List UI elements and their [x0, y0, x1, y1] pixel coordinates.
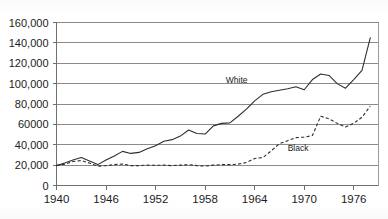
y-tick-label: 20,000 — [15, 159, 49, 171]
y-axis-tick-labels: 160,000140,000120,000100,00080,000600004… — [9, 17, 49, 192]
y-tick-label: 100,000 — [9, 78, 49, 90]
y-tick-label: 140,000 — [9, 37, 49, 49]
x-tick-label: 1970 — [291, 193, 317, 205]
x-tick-label: 1946 — [93, 193, 119, 205]
y-tick-label: 120,000 — [9, 57, 49, 69]
line-chart: 160,000140,000120,000100,00080,000600004… — [0, 0, 388, 219]
y-tick-label: 60000 — [18, 118, 49, 130]
x-tick-label: 1952 — [143, 193, 169, 205]
y-tick-label: 80,000 — [15, 98, 49, 110]
x-tick-label: 1940 — [44, 193, 70, 205]
chart-background — [0, 0, 388, 219]
y-tick-label: 40,000 — [15, 139, 49, 151]
x-tick-label: 1976 — [341, 193, 367, 205]
chart-canvas: 160,000140,000120,000100,00080,000600004… — [0, 0, 388, 219]
y-tick-label: 160,000 — [9, 17, 49, 29]
y-tick-label: 0 — [42, 180, 48, 192]
x-tick-label: 1964 — [242, 193, 268, 205]
series-annotation-black: Black — [288, 143, 310, 153]
x-tick-label: 1958 — [192, 193, 218, 205]
series-annotation-white: White — [226, 75, 248, 85]
